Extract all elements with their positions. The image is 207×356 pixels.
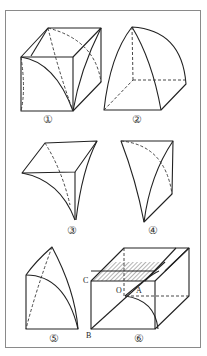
point-label-a: A	[136, 286, 142, 295]
panel-label-6: ⑥	[131, 332, 147, 344]
solid-1	[21, 28, 101, 111]
point-label-c: C	[83, 276, 88, 285]
solid-2	[104, 27, 186, 110]
solid-3	[22, 141, 97, 220]
point-label-b: B	[86, 331, 91, 340]
solid-5	[26, 247, 78, 329]
solid-4	[121, 141, 173, 222]
panel-label-2: ②	[129, 113, 145, 125]
point-label-o: O	[116, 286, 122, 295]
diagram-canvas	[0, 0, 207, 356]
panel-label-4: ④	[145, 224, 161, 236]
panel-label-3: ③	[64, 224, 80, 236]
panel-label-1: ①	[40, 113, 56, 125]
panel-label-5: ⑤	[46, 332, 62, 344]
